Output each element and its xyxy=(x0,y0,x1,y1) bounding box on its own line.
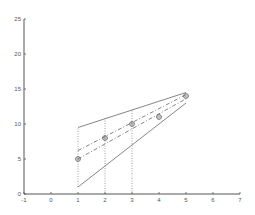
y-tick-label: 15 xyxy=(14,86,21,92)
x-tick-label: 2 xyxy=(103,197,107,203)
x-tick-label: 3 xyxy=(130,197,134,203)
chart: -101234567 0510152025 xyxy=(0,0,255,215)
y-tick-label: 10 xyxy=(14,121,21,127)
x-tick-label: 1 xyxy=(76,197,80,203)
y-axis: 0510152025 xyxy=(14,16,26,197)
x-axis: -101234567 xyxy=(21,192,242,203)
x-tick-label: 4 xyxy=(157,197,161,203)
plot-area xyxy=(76,93,189,195)
x-tick-label: 6 xyxy=(211,197,215,203)
x-tick-label: -1 xyxy=(21,197,27,203)
x-tick-label: 0 xyxy=(49,197,53,203)
y-tick-label: 25 xyxy=(14,16,21,22)
x-tick-label: 5 xyxy=(184,197,188,203)
y-tick-label: 5 xyxy=(18,156,22,162)
x-tick-label: 7 xyxy=(238,197,242,203)
y-tick-label: 20 xyxy=(14,51,21,57)
